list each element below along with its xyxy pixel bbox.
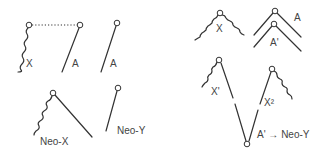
label-a: A [72,58,79,69]
label-result: A' → Neo-Y [257,129,310,140]
x-squared-wavy-arm [274,71,292,99]
label-a-right: A [294,12,301,23]
translocation-v-group: X' X² A' → Neo-Y [202,57,310,147]
x-right-wavy-arm [222,15,244,35]
v-left-arm-upper [221,63,233,98]
neo-x-group: Neo-X [34,90,92,147]
a-outer-left-arm [254,13,273,35]
x-bivalent-group: X [195,10,244,40]
label-a-prime: A' [270,37,279,48]
x-right-centromere [217,10,223,16]
x-squared-centromere [269,66,275,72]
label-a-alone: A [110,58,117,69]
a-alone-centromere [114,20,120,26]
x-centromere [26,22,32,28]
label-x-right: X [216,23,223,34]
x-left-wavy-arm [195,15,218,40]
neo-y-line [106,91,117,131]
label-neo-y: Neo-Y [117,125,146,136]
x-prime-centromere [216,57,222,63]
a-a-prime-group: A A' [254,8,301,51]
a-centromere [77,22,83,28]
a-prime-right-arm [276,26,301,51]
label-x-squared: X² [264,97,275,108]
a-alone-group: A [101,20,120,72]
label-neo-x: Neo-X [40,136,69,147]
label-x: X [26,58,33,69]
x-a-linked-group: X A [18,22,83,72]
a-prime-bottom-centromere [244,141,250,147]
neo-y-group: Neo-Y [106,85,146,136]
neo-x-centromere [50,90,56,96]
neo-x-wavy-arm [34,96,52,135]
a-prime-centromere [271,21,277,27]
chromosome-fusion-diagram: X A A Neo-X Neo-Y X A A' [0,0,317,157]
a-centromere-right [272,8,278,14]
neo-x-straight-arm [55,95,92,137]
label-x-prime: X' [211,86,220,97]
neo-y-centromere [115,85,121,91]
x-prime-wavy-arm [202,62,217,87]
v-left-arm-lower [235,104,246,141]
